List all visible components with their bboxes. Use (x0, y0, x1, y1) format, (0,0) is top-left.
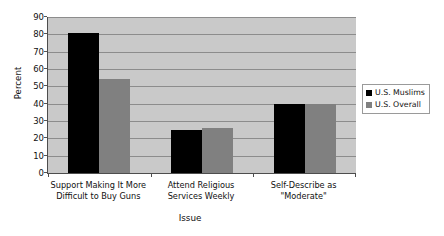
x-axis-tick-mark (48, 173, 49, 177)
x-axis-title-text: Issue (179, 213, 202, 223)
legend-item-label: U.S. Overall (375, 100, 421, 110)
bar (99, 79, 130, 173)
y-axis-tick-label: 80 (22, 30, 44, 38)
chart-legend: U.S. MuslimsU.S. Overall (362, 84, 430, 114)
y-axis-tick-label: 30 (22, 117, 44, 125)
bar (274, 104, 305, 173)
bar-group (171, 17, 233, 173)
legend-swatch-icon (366, 102, 372, 108)
bar (68, 33, 99, 173)
bar (305, 104, 336, 173)
y-axis-tick-label: 40 (22, 100, 44, 108)
x-axis-category-label-line: "Moderate" (244, 191, 364, 202)
x-axis-tick-mark (151, 173, 152, 177)
legend-item: U.S. Overall (366, 100, 425, 110)
legend-item: U.S. Muslims (366, 88, 425, 98)
legend-swatch-icon (366, 90, 372, 96)
x-axis-category-label-line: Self-Describe as (244, 180, 364, 191)
bar (171, 130, 202, 173)
legend-item-label: U.S. Muslims (375, 88, 425, 98)
y-axis-tick-label: 0 (22, 169, 44, 177)
y-axis-tick-label: 10 (22, 152, 44, 160)
x-axis-title: Issue (0, 213, 444, 223)
bar-group (68, 17, 130, 173)
bar (202, 128, 233, 173)
y-axis-tick-label: 90 (22, 13, 44, 21)
x-axis-tick-mark (355, 173, 356, 177)
plot-area (47, 17, 356, 174)
y-axis-tick-label: 20 (22, 134, 44, 142)
bar-chart-figure: Percent 0102030405060708090 Support Maki… (0, 0, 444, 236)
y-axis-tick-label: 60 (22, 65, 44, 73)
x-axis-category-label: Self-Describe as"Moderate" (244, 180, 364, 202)
y-axis-tick-label: 70 (22, 48, 44, 56)
bar-group (274, 17, 336, 173)
y-axis-tick-label: 50 (22, 82, 44, 90)
x-axis-tick-mark (253, 173, 254, 177)
